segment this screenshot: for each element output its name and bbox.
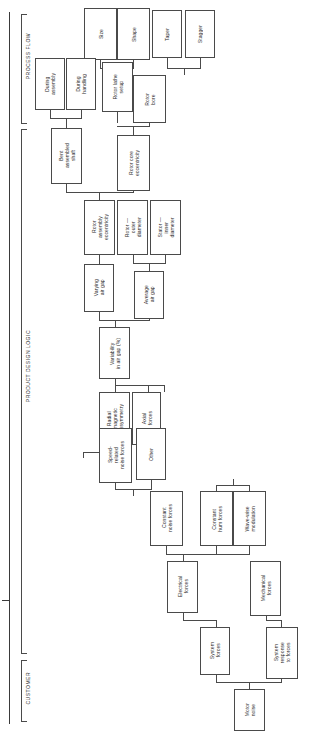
section-label-customer: CUSTOMER	[25, 672, 31, 705]
connector-row3-bus	[66, 192, 134, 193]
node-wave-wise-modulation-label: Wave-wise modulation	[244, 506, 256, 531]
node-rotor-bore[interactable]: Rotor bore	[133, 75, 166, 123]
node-rotor-assembly-eccentricity[interactable]: Rotor assembly eccentricity	[84, 200, 115, 255]
node-system-response-to-forces[interactable]: System response to forces	[266, 627, 298, 679]
node-electrical-forces[interactable]: Electrical forces	[167, 561, 198, 613]
node-average-air-gap[interactable]: Average air gap	[134, 271, 164, 319]
node-other-label: Other	[148, 448, 154, 461]
node-rotor-lathe-setup[interactable]: Rotor lathe setup	[102, 62, 133, 112]
node-average-air-gap-label: Average air gap	[143, 285, 155, 304]
connector-stator-id-stem	[165, 255, 166, 263]
node-rotor-outer-diameter-label: Rotor — outer diameter	[124, 217, 142, 237]
connector-axial-feed	[148, 385, 149, 392]
node-variability-in-air-gap[interactable]: Variability in air gap (%)	[99, 327, 130, 379]
node-motor-noise[interactable]: Motor noise	[234, 689, 265, 731]
node-shape-label: Shape	[131, 27, 137, 42]
connector-variability-feed	[115, 320, 116, 327]
node-taper[interactable]: Taper	[152, 10, 182, 58]
node-mechanical-forces-label: Mechanical forces	[260, 575, 272, 601]
connector-row6-tick-3	[164, 385, 165, 392]
node-axial-forces-label: Axial forces	[141, 411, 153, 425]
node-during-handling[interactable]: During handling	[66, 58, 96, 110]
connector-row6-bus	[115, 385, 165, 386]
connector-system-response-feed	[281, 620, 282, 627]
node-stagger[interactable]: Stagger	[185, 10, 215, 58]
node-during-assembly-label: During assembly	[44, 73, 56, 95]
node-speed-related-noise-forces[interactable]: Speed- related noise forces	[99, 428, 132, 483]
node-variability-in-air-gap-label: Variability in air gap (%)	[109, 338, 121, 369]
node-stagger-label: Stagger	[197, 25, 203, 43]
connector-electrical-feed	[183, 554, 184, 561]
node-constant-noise-forces-label: Constant noise forces	[161, 504, 173, 532]
connector-shape-stem	[133, 60, 134, 68]
connector-during-assembly-stem	[50, 110, 51, 118]
connector-taper-stagger-drop	[184, 68, 185, 75]
connector-row9-bus	[166, 554, 250, 555]
connector-constant-hum-stem	[216, 546, 217, 554]
node-size-label: Size	[98, 29, 104, 39]
node-varying-air-gap-label: Varying air gap	[93, 279, 105, 296]
node-bent-assembled-shaft[interactable]: Bent assembled shaft	[51, 128, 82, 184]
node-constant-noise-forces[interactable]: Constant noise forces	[150, 491, 183, 546]
connector-during-handling-stem	[81, 110, 82, 118]
node-system-forces[interactable]: System forces	[200, 627, 230, 675]
node-system-forces-label: System forces	[209, 642, 221, 659]
connector-average-air-gap-feed	[149, 263, 150, 271]
connector-rotor-assembly-stem	[99, 255, 100, 264]
connector-row5-bus	[99, 320, 150, 321]
node-rotor-outer-diameter[interactable]: Rotor — outer diameter	[117, 200, 148, 255]
node-speed-related-noise-forces-label: Speed- related noise forces	[107, 441, 125, 469]
connector-hum-top-tick	[216, 485, 217, 491]
connector-rotor-assembly-feed	[99, 192, 100, 200]
connector-taper-stem	[167, 58, 168, 68]
section-label-process-flow: PROCESS FLOW	[25, 33, 31, 79]
connector-hum-wave-top-stem	[233, 479, 234, 485]
node-constant-hum-forces[interactable]: Constant hum forces	[200, 491, 233, 546]
node-taper-label: Taper	[164, 28, 170, 41]
node-stator-inner-diameter[interactable]: Stator — inner diameter	[150, 200, 181, 255]
node-during-handling-label: During handling	[75, 74, 87, 94]
connector-rotor-core-feed	[133, 126, 134, 135]
node-rotor-core-eccentricity[interactable]: Rotor core eccentricity	[117, 135, 150, 191]
connector-system-forces-stem	[216, 675, 217, 682]
connector-wave-top-tick	[249, 485, 250, 491]
node-mechanical-forces[interactable]: Mechanical forces	[250, 561, 281, 616]
page-left-tick	[2, 600, 10, 601]
node-wave-wise-modulation[interactable]: Wave-wise modulation	[233, 491, 266, 546]
node-size[interactable]: Size	[84, 8, 117, 60]
node-other[interactable]: Other	[136, 428, 166, 480]
connector-other-stem	[151, 480, 152, 489]
connector-electrical-stem	[183, 613, 184, 620]
diagram-canvas: PROCESS FLOW PRODUCT DESIGN LOGIC CUSTOM…	[0, 0, 334, 735]
connector-electrical-bus	[183, 620, 217, 621]
node-rotor-core-eccentricity-label: Rotor core eccentricity	[128, 150, 140, 176]
section-label-product-design-logic: PRODUCT DESIGN LOGIC	[25, 330, 31, 402]
connector-stagger-stem	[200, 58, 201, 68]
connector-size-stem	[100, 60, 101, 68]
node-stator-inner-diameter-label: Stator — inner diameter	[157, 217, 175, 238]
node-constant-hum-forces-label: Constant hum forces	[211, 506, 223, 532]
connector-mechanical-bus	[266, 620, 282, 621]
connector-speed-related-feed	[83, 452, 84, 458]
node-rotor-assembly-eccentricity-label: Rotor assembly eccentricity	[91, 214, 109, 240]
node-shape[interactable]: Shape	[117, 8, 150, 60]
connector-rotor-od-stem	[133, 255, 134, 263]
node-rotor-bore-label: Rotor bore	[144, 93, 156, 106]
node-motor-noise-label: Motor noise	[244, 703, 256, 716]
connector-constant-noise-stem	[166, 546, 167, 554]
node-system-response-to-forces-label: System response to forces	[273, 642, 291, 663]
connector-constant-noise-feed	[133, 489, 134, 496]
connector-bent-shaft-feed	[66, 118, 67, 128]
connector-radial-feed	[115, 385, 116, 392]
connector-motor-noise-feed	[249, 682, 250, 689]
node-rotor-lathe-setup-label: Rotor lathe setup	[112, 74, 124, 99]
connector-varying-air-gap-stem	[99, 312, 100, 320]
node-varying-air-gap[interactable]: Varying air gap	[84, 264, 114, 312]
page-left-rail	[9, 12, 10, 724]
connector-hum-wave-top-bus	[216, 485, 250, 486]
connector-rotor-lathe-stem	[117, 112, 118, 123]
node-during-assembly[interactable]: During assembly	[35, 58, 65, 110]
connector-system-forces-feed	[216, 620, 217, 627]
node-bent-assembled-shaft-label: Bent assembled shaft	[58, 143, 76, 168]
node-electrical-forces-label: Electrical forces	[177, 576, 189, 597]
